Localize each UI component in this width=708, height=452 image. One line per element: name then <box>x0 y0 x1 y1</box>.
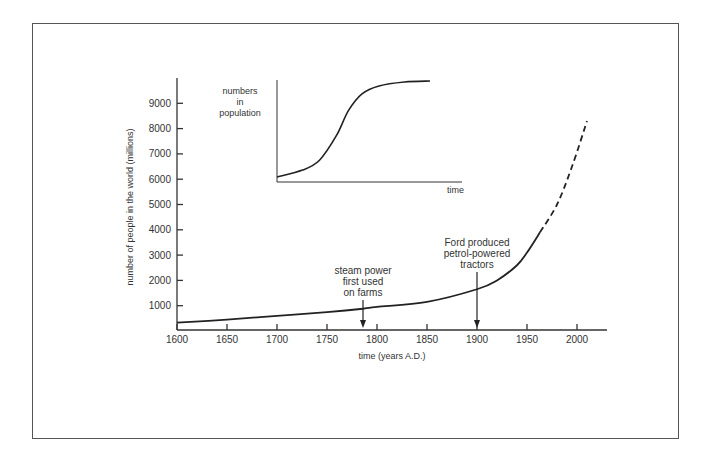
annotation-text: first used <box>343 276 384 287</box>
y-tick-label: 7000 <box>149 148 172 159</box>
inset-x-label: time <box>447 185 464 195</box>
annotation-text: Ford produced <box>444 237 509 248</box>
inset-y-label-line: in <box>236 97 243 107</box>
population-chart: 160016501700175018001850190019502000 100… <box>0 0 708 452</box>
annotations: steam powerfirst usedon farmsFord produc… <box>334 237 510 328</box>
y-tick-label: 1000 <box>149 300 172 311</box>
y-axis-ticks: 100020003000400050006000700080009000 <box>149 98 183 311</box>
arrowhead-icon <box>474 320 480 328</box>
y-tick-label: 8000 <box>149 123 172 134</box>
x-tick-label: 1900 <box>466 334 489 345</box>
population-curve-projected <box>540 121 587 232</box>
x-tick-label: 1800 <box>366 334 389 345</box>
annotation-text: tractors <box>460 259 493 270</box>
x-tick-label: 2000 <box>566 334 589 345</box>
annotation-text: steam power <box>334 265 392 276</box>
x-tick-label: 1600 <box>166 334 189 345</box>
annotation-text: petrol-powered <box>444 248 511 259</box>
y-tick-label: 5000 <box>149 199 172 210</box>
inset-chart: time numbersinpopulation <box>219 80 464 195</box>
y-tick-label: 6000 <box>149 174 172 185</box>
x-tick-label: 1700 <box>266 334 289 345</box>
annotation-text: on farms <box>344 287 383 298</box>
inset-s-curve <box>277 81 430 177</box>
y-axis-label: number of people in the world (millions) <box>125 128 135 285</box>
x-axis-label: time (years A.D.) <box>358 351 425 361</box>
x-tick-label: 1850 <box>416 334 439 345</box>
y-tick-label: 2000 <box>149 275 172 286</box>
inset-y-label-line: population <box>219 108 261 118</box>
y-tick-label: 9000 <box>149 98 172 109</box>
y-tick-label: 4000 <box>149 224 172 235</box>
inset-y-label-line: numbers <box>222 86 258 96</box>
x-tick-label: 1750 <box>316 334 339 345</box>
inset-y-label: numbersinpopulation <box>219 86 261 118</box>
x-tick-label: 1950 <box>516 334 539 345</box>
x-tick-label: 1650 <box>216 334 239 345</box>
x-axis-ticks: 160016501700175018001850190019502000 <box>166 324 589 345</box>
arrowhead-icon <box>360 320 366 328</box>
y-tick-label: 3000 <box>149 250 172 261</box>
